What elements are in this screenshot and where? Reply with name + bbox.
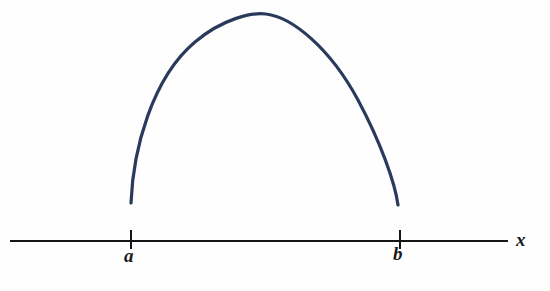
function-curve [131, 14, 398, 205]
figure-canvas: a b x [0, 0, 550, 291]
tick-label-b: b [393, 244, 403, 263]
figure-drawing [0, 0, 550, 291]
tick-label-a: a [124, 246, 134, 265]
x-axis-label: x [516, 230, 526, 249]
